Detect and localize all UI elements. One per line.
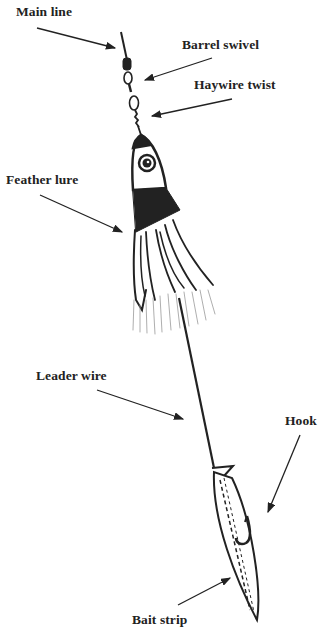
label-haywire-twist: Haywire twist	[194, 77, 276, 93]
label-barrel-swivel: Barrel swivel	[182, 37, 259, 53]
arrow-leader-wire	[97, 390, 183, 419]
arrow-feather-lure	[40, 195, 122, 232]
lure-head	[132, 135, 166, 190]
label-main-line: Main line	[16, 4, 72, 20]
bait-strip-and-hook	[212, 466, 258, 620]
arrow-haywire-twist	[152, 99, 232, 116]
label-feather-lure: Feather lure	[6, 172, 78, 188]
leader-wire-line	[179, 298, 214, 468]
rig-illustration	[0, 0, 329, 637]
label-bait-strip: Bait strip	[132, 612, 187, 628]
arrow-bait-strip	[178, 578, 230, 605]
arrow-main-line	[37, 28, 115, 48]
label-leader-wire: Leader wire	[36, 368, 107, 384]
label-hook: Hook	[285, 413, 317, 429]
pointer-arrows	[37, 28, 300, 605]
feather-skirt	[133, 188, 215, 334]
main-line-and-swivel	[121, 32, 141, 135]
arrow-hook	[268, 435, 300, 512]
